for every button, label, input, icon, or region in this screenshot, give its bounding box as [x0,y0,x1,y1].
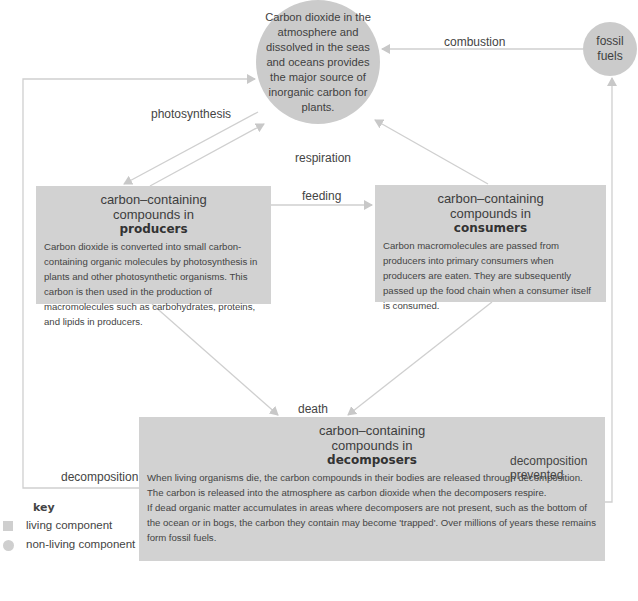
fossil-fuels-text: fossil fuels [583,34,637,64]
producers-description: Carbon dioxide is converted into small c… [44,239,263,329]
producers-node: carbon–containing compounds in producers… [36,186,271,304]
decomposers-node: carbon–containing compounds in decompose… [139,417,605,561]
label-feeding: feeding [302,189,341,203]
consumers-description: Carbon macromolecules are passed from pr… [383,238,598,313]
consumers-heading-2: compounds in [383,206,598,221]
label-respiration: respiration [295,151,351,165]
consumers-heading-3: consumers [383,221,598,235]
label-photosynthesis: photosynthesis [151,107,231,121]
living-component-swatch-icon [3,521,13,531]
decomposers-heading-1: carbon–containing [147,423,597,438]
atmosphere-co2-node: Carbon dioxide in the atmosphere and dis… [256,0,380,124]
producers-heading-2: compounds in [44,207,263,222]
label-decomposition-prevented-2: prevented [510,468,563,482]
label-decomposition: decomposition [61,470,138,484]
label-combustion: combustion [444,35,505,49]
key-living-label: living component [26,519,112,531]
atmosphere-text: Carbon dioxide in the atmosphere and dis… [256,10,380,115]
decomposers-description-2: If dead organic matter accumulates in ar… [147,500,597,545]
producers-heading-3: producers [44,222,263,236]
consumers-heading-1: carbon–containing [383,191,598,206]
nonliving-component-swatch-icon [3,540,14,551]
consumers-node: carbon–containing compounds in consumers… [375,185,606,302]
producers-heading-1: carbon–containing [44,192,263,207]
decomposers-heading-2: compounds in [147,438,597,453]
fossil-fuels-node: fossil fuels [583,22,637,76]
label-decomposition-prevented-1: decomposition [510,454,587,468]
key-title: key [33,501,55,514]
key-nonliving-label: non-living component [26,538,135,550]
label-death: death [298,402,328,416]
